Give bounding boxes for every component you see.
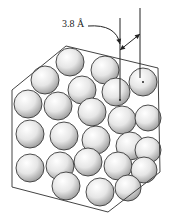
sphere-center-dot: [142, 81, 144, 83]
leader-curve: [88, 26, 120, 44]
sphere-atom: [74, 148, 102, 176]
sphere-atom: [52, 172, 80, 200]
sphere-atom: [16, 120, 44, 148]
sphere-atom: [78, 98, 106, 126]
sphere-atom: [50, 122, 78, 150]
sphere-atom: [108, 106, 136, 134]
sphere-atom: [86, 178, 114, 206]
sphere-group: [14, 48, 161, 206]
dimension-label: 3.8 Å: [62, 18, 84, 29]
crystal-diagram: 3.8 Å: [0, 0, 169, 222]
lattice-figure: [0, 0, 169, 222]
sphere-atom: [14, 90, 42, 118]
sphere-atom: [31, 66, 59, 94]
sphere-atom: [16, 154, 44, 182]
sphere-atom: [56, 48, 84, 76]
sphere-center-dot: [119, 99, 121, 101]
sphere-atom: [135, 105, 161, 131]
sphere-atom: [44, 92, 72, 120]
sphere-atom: [102, 78, 130, 106]
